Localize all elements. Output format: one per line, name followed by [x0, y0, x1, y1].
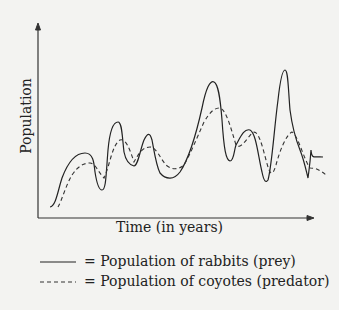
legend-item-rabbits: = Population of rabbits (prey): [40, 253, 296, 269]
solid-line-swatch-icon: [40, 259, 78, 265]
y-axis-arrow-icon: [36, 23, 41, 30]
legend-label-rabbits: = Population of rabbits (prey): [84, 253, 296, 269]
legend-item-coyotes: = Population of coyotes (predator): [40, 273, 329, 289]
rabbits-line: [50, 70, 323, 207]
legend-label-coyotes: = Population of coyotes (predator): [84, 273, 329, 289]
coyotes-line: [58, 108, 326, 207]
dashed-line-swatch-icon: [40, 279, 78, 285]
x-axis-label: Time (in years): [0, 219, 339, 235]
y-axis-label: Population: [18, 76, 34, 156]
